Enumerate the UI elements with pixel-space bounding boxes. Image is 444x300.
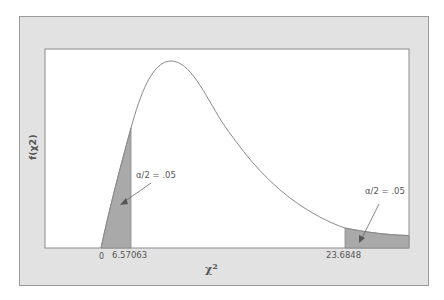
tick-label-lower-critical: 6.57063: [112, 250, 147, 260]
right-annotation-label: α/2 = .05: [365, 186, 405, 196]
x-axis-label: χ2: [205, 261, 218, 276]
x-axis-label-superscript: 2: [212, 261, 218, 271]
plot-area: [45, 49, 409, 248]
y-axis-label: f(χ2): [27, 134, 38, 160]
left-annotation-label: α/2 = .05: [136, 170, 176, 180]
x-axis-label-main: χ: [205, 263, 212, 276]
tick-label-upper-critical: 23.6848: [326, 250, 361, 260]
tick-label-zero: 0: [99, 252, 104, 261]
chi-square-chart: α/2 = .05 α/2 = .05 0 6.57063 23.6848 χ2…: [0, 0, 444, 300]
